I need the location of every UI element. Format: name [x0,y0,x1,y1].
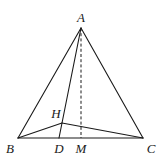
point-label-h: H [50,106,61,121]
point-label-b: B [6,141,14,156]
point-label-a: A [76,10,85,25]
point-label-c: C [147,141,156,156]
diagram-segments [18,28,143,138]
point-label-m: M [75,141,88,156]
segment-ac [81,28,143,138]
pyramid-diagram: A B C H D M [0,0,168,163]
point-label-d: D [53,141,64,156]
segment-ab [18,28,81,138]
segment-hc [62,123,143,138]
segment-bh [18,123,62,138]
segment-ad [59,28,81,138]
